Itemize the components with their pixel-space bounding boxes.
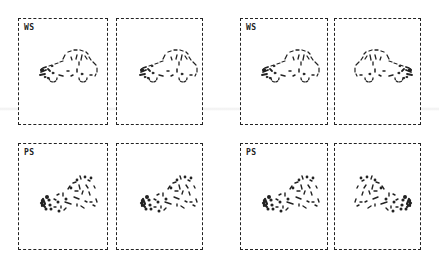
car-dotted-outline-image-mirrored — [335, 19, 422, 126]
car-scrambled-image — [117, 144, 204, 251]
car-dotted-outline-image — [19, 19, 109, 126]
car-scrambled-image — [241, 144, 329, 251]
panel-left-ps-2 — [116, 143, 203, 250]
panel-left-ws-1: WS — [18, 18, 108, 125]
panel-right-ps-2-mirrored — [334, 143, 421, 250]
car-scrambled-image-mirrored — [335, 144, 422, 251]
panel-right-ws-2-mirrored — [334, 18, 421, 125]
car-dotted-outline-image — [117, 19, 204, 126]
panel-left-ws-2 — [116, 18, 203, 125]
panel-right-ws-1: WS — [240, 18, 328, 125]
panel-right-ps-1: PS — [240, 143, 328, 250]
car-dotted-outline-image — [241, 19, 329, 126]
car-scrambled-image — [19, 144, 109, 251]
panel-left-ps-1: PS — [18, 143, 108, 250]
